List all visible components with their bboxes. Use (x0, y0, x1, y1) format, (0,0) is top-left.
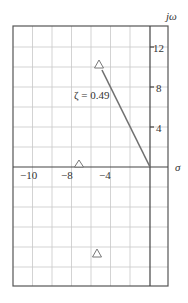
damping-ratio-line (102, 70, 150, 167)
y-tick-4: 4 (156, 122, 162, 134)
triangle-marker-real-axis (75, 160, 84, 167)
damping-ratio-annotation: ζ = 0.49 (74, 89, 110, 102)
y-tick-12: 12 (153, 42, 164, 54)
y-ticks (150, 47, 154, 127)
triangle-marker-lower (93, 249, 102, 257)
real-axis-label: σ (175, 161, 181, 173)
x-tick-minus-8: −8 (61, 169, 73, 181)
x-tick-minus-10: −10 (20, 169, 38, 181)
triangle-marker-upper (95, 60, 104, 68)
y-tick-8: 8 (156, 82, 162, 94)
imaginary-axis-label: jω (164, 10, 177, 22)
s-plane-diagram: jω σ 12 8 4 −10 −8 −4 ζ = 0.49 (0, 0, 188, 303)
x-tick-minus-4: −4 (99, 169, 111, 181)
